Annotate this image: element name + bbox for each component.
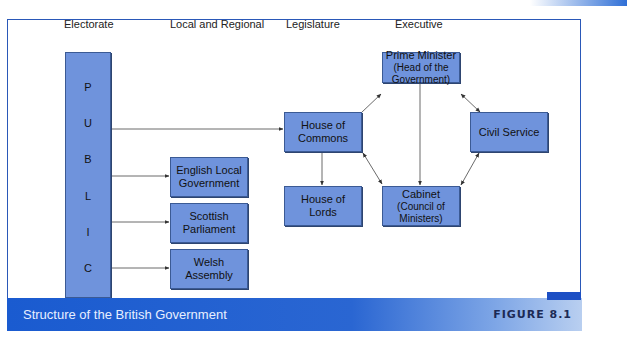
- node-label: House of: [301, 119, 345, 132]
- node-label: Prime Minister: [386, 49, 456, 62]
- node-label: English Local: [176, 164, 241, 177]
- caption-band: Structure of the British Government FIGU…: [7, 298, 582, 331]
- node-sublabel: Government): [392, 74, 450, 86]
- public-letter: B: [84, 153, 91, 166]
- cabinet-box: Cabinet (Council of Ministers): [382, 186, 460, 226]
- public-letter: I: [86, 226, 89, 239]
- figure-title: Structure of the British Government: [23, 307, 227, 322]
- node-label: Welsh: [194, 256, 224, 269]
- node-label: Lords: [309, 206, 337, 219]
- house-of-lords-box: House of Lords: [284, 186, 362, 226]
- public-letter: C: [84, 262, 92, 275]
- node-sublabel: (Council of: [397, 201, 445, 213]
- welsh-assembly-box: Welsh Assembly: [170, 249, 248, 289]
- node-label: Parliament: [183, 223, 236, 236]
- public-letter: L: [85, 190, 91, 203]
- english-local-government-box: English Local Government: [170, 157, 248, 197]
- decorative-tab: [547, 292, 581, 300]
- node-label: Civil Service: [479, 126, 540, 139]
- public-letter: P: [84, 81, 91, 94]
- figure-number: FIGURE 8.1: [493, 308, 572, 321]
- node-label: Assembly: [185, 269, 233, 282]
- prime-minister-box: Prime Minister (Head of the Government): [382, 52, 460, 83]
- node-label: Commons: [298, 132, 348, 145]
- civil-service-box: Civil Service: [470, 112, 548, 152]
- node-label: House of: [301, 193, 345, 206]
- scottish-parliament-box: Scottish Parliament: [170, 203, 248, 243]
- house-of-commons-box: House of Commons: [284, 112, 362, 152]
- node-sublabel: Ministers): [399, 213, 442, 225]
- public-box: P U B L I C: [65, 52, 111, 298]
- node-label: Cabinet: [402, 188, 440, 201]
- node-sublabel: (Head of the: [393, 62, 448, 74]
- public-letter: U: [84, 117, 92, 130]
- node-label: Government: [179, 177, 240, 190]
- node-label: Scottish: [189, 210, 228, 223]
